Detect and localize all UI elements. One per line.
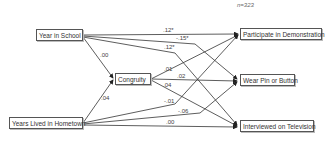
path-ys-congruity [83, 37, 113, 78]
coef-yh-interviewed: .00 [166, 119, 174, 125]
node-interviewed-on-television: Interviewed on Television [240, 120, 314, 132]
node-years-lived-in-hometown: Years Lived in Hometown [9, 117, 83, 129]
coef-yh-participate: -.01 [164, 98, 174, 104]
path-ys-interviewed [83, 37, 237, 125]
node-year-in-school: Year in School [36, 29, 83, 41]
path-yh-congruity [83, 80, 113, 123]
coef-ys-participate: .12* [163, 27, 174, 33]
path-ys-participate [83, 34, 238, 35]
path-yh-interviewed [83, 125, 237, 127]
coef-cg-participate: .01 [164, 66, 172, 72]
node-congruity: Congruity [115, 73, 151, 85]
sample-size-label: n=323 [237, 2, 254, 8]
node-participate-in-demonstration: Participate in Demonstration [240, 28, 322, 40]
coef-yh-wearpin: -.06 [178, 108, 188, 114]
coef-yh-congruity: .04 [101, 95, 109, 101]
node-wear-pin-or-button: Wear Pin or Button [240, 74, 295, 86]
coef-cg-interviewed: .04 [163, 82, 171, 88]
coef-ys-interviewed: .12* [164, 44, 175, 50]
coef-ys-wearpin: -.15* [176, 35, 189, 41]
coef-ys-congruity: .00 [100, 52, 108, 58]
coef-cg-wearpin: .02 [177, 73, 185, 79]
path-yh-wearpin [83, 82, 237, 124]
path-cg-wearpin [151, 79, 237, 81]
